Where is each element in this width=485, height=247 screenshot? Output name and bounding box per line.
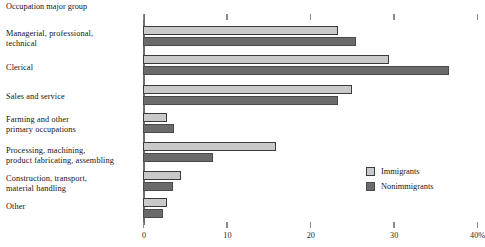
chart-legend: Immigrants Nonimmigrants (366, 164, 434, 194)
axis-tick-label: 40% (470, 231, 485, 240)
axis-tick (393, 222, 394, 228)
category-label: Managerial, professional, technical (6, 29, 93, 48)
axis-tick (310, 14, 311, 20)
bar-immigrants (143, 198, 167, 207)
axis-tick (226, 222, 227, 228)
legend-label-immigrants: Immigrants (381, 167, 420, 176)
axis-tick (393, 14, 394, 20)
axis-tick-label: 30 (390, 231, 398, 240)
axis-tick (143, 14, 144, 20)
category-label: Construction, transport, material handli… (6, 174, 87, 193)
chart-axis-title: Occupation major group (6, 2, 87, 12)
bar-immigrants (143, 171, 181, 180)
axis-tick (226, 14, 227, 20)
axis-tick (477, 14, 478, 20)
legend-swatch-nonimmigrants (366, 182, 375, 191)
bar-nonimmigrants (143, 66, 449, 75)
bar-immigrants (143, 85, 352, 94)
category-label: Processing, machining, product fabricati… (6, 146, 114, 165)
legend-label-nonimmigrants: Nonimmigrants (381, 182, 434, 191)
axis-tick (310, 222, 311, 228)
legend-item-nonimmigrants[interactable]: Nonimmigrants (366, 179, 434, 194)
axis-tick-label: 0 (142, 231, 146, 240)
axis-tick (143, 222, 144, 228)
legend-item-immigrants[interactable]: Immigrants (366, 164, 434, 179)
axis-tick-label: 20 (307, 231, 315, 240)
category-label: Sales and service (6, 92, 65, 102)
axis-tick (477, 222, 478, 228)
bar-nonimmigrants (143, 182, 173, 191)
category-label: Clerical (6, 63, 33, 73)
legend-swatch-immigrants (366, 167, 375, 176)
bar-nonimmigrants (143, 37, 356, 46)
category-label: Other (6, 202, 25, 212)
occupation-major-group-bar-chart: Occupation major group Managerial, profe… (0, 0, 485, 247)
bar-nonimmigrants (143, 124, 174, 133)
bar-immigrants (143, 55, 389, 64)
axis-tick-label: 10 (223, 231, 231, 240)
bar-immigrants (143, 26, 338, 35)
category-label: Farming and other primary occupations (6, 115, 76, 134)
bar-nonimmigrants (143, 209, 163, 218)
bar-immigrants (143, 113, 167, 122)
bar-immigrants (143, 142, 276, 151)
bar-nonimmigrants (143, 96, 338, 105)
bar-nonimmigrants (143, 153, 213, 162)
